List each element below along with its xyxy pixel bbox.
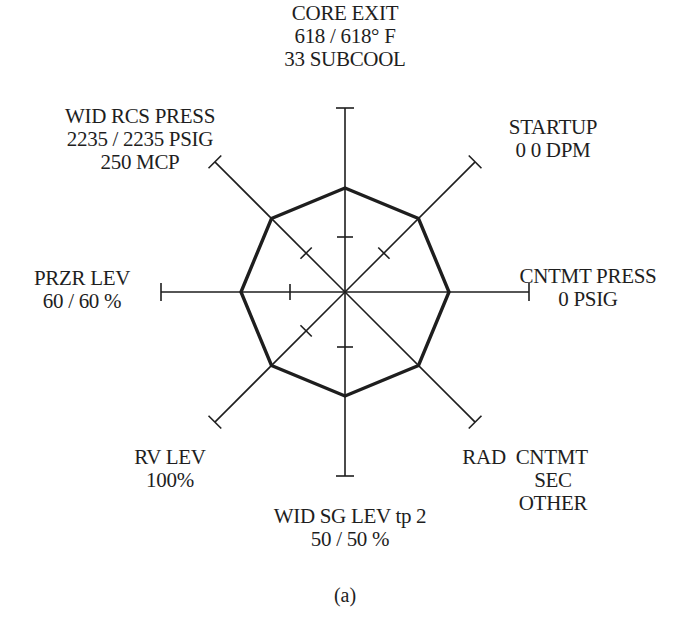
rad-other: OTHER [440, 492, 610, 515]
axis-rad [345, 292, 475, 422]
label-core-exit: CORE EXIT 618 / 618° F 33 SUBCOOL [245, 2, 445, 71]
startup-title: STARTUP [493, 116, 613, 139]
startup-dpm: 0 0 DPM [493, 139, 613, 162]
wid-rcs-press-title: WID RCS PRESS [45, 105, 235, 128]
label-startup: STARTUP 0 0 DPM [493, 116, 613, 162]
rad-cntmt-title: RAD CNTMT [440, 446, 610, 469]
wid-rcs-press-value: 2235 / 2235 PSIG [45, 128, 235, 151]
wid-sg-lev-title: WID SG LEV tp 2 [240, 505, 460, 528]
wid-sg-lev-value: 50 / 50 % [240, 528, 460, 551]
cntmt-press-value: 0 PSIG [508, 288, 668, 311]
label-wid-rcs-press: WID RCS PRESS 2235 / 2235 PSIG 250 MCP [45, 105, 235, 174]
label-cntmt-press: CNTMT PRESS 0 PSIG [508, 265, 668, 311]
przr-lev-value: 60 / 60 % [22, 290, 142, 313]
axis-startup [345, 162, 475, 292]
label-rv-lev: RV LEV 100% [110, 446, 230, 492]
rad-sec: SEC [440, 469, 610, 492]
core-exit-title: CORE EXIT [245, 2, 445, 25]
rv-lev-title: RV LEV [110, 446, 230, 469]
figure-caption: (a) [320, 584, 370, 606]
przr-lev-title: PRZR LEV [22, 267, 142, 290]
cntmt-press-title: CNTMT PRESS [508, 265, 668, 288]
label-wid-sg-lev: WID SG LEV tp 2 50 / 50 % [240, 505, 460, 551]
label-rad-cntmt: RAD CNTMT SEC OTHER [440, 446, 610, 515]
label-przr-lev: PRZR LEV 60 / 60 % [22, 267, 142, 313]
wid-rcs-press-mcp: 250 MCP [45, 151, 235, 174]
axis-rv-lev [215, 292, 345, 422]
core-exit-subcool: 33 SUBCOOL [245, 48, 445, 71]
rv-lev-value: 100% [110, 469, 230, 492]
core-exit-temperature: 618 / 618° F [245, 25, 445, 48]
axis-wid-rcs-press [215, 162, 345, 292]
